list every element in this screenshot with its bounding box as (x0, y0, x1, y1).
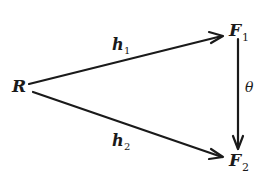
node-r: R (11, 76, 26, 96)
node-f2-label: F (228, 150, 243, 170)
edge-h1-label: h (112, 35, 124, 54)
edge-theta-label: θ (245, 79, 254, 95)
edge-h2-label: h (112, 131, 124, 150)
edge-h2: h 2 (33, 92, 223, 159)
edge-theta: θ (233, 39, 254, 149)
node-r-label: R (11, 76, 26, 96)
edge-h1-subscript: 1 (124, 45, 130, 56)
node-f1-label: F (228, 20, 243, 40)
edge-h2-subscript: 2 (124, 141, 130, 152)
edge-h1-line (29, 36, 222, 84)
commutative-triangle-diagram: R F 1 F 2 h 1 h 2 θ (0, 0, 265, 180)
node-f2: F 2 (228, 150, 249, 174)
edge-h1: h 1 (29, 32, 223, 84)
node-f2-subscript: 2 (242, 161, 249, 174)
node-f1-subscript: 1 (242, 31, 249, 44)
